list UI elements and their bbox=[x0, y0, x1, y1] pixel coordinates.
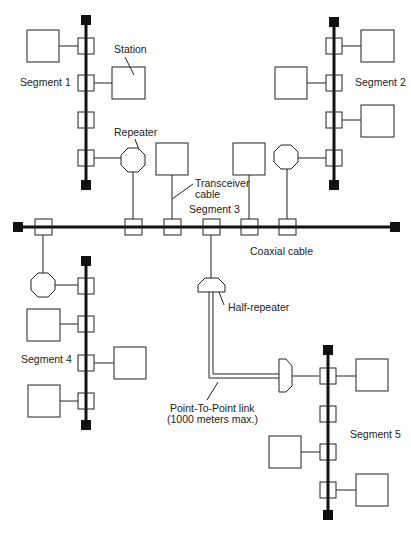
ptp-leader bbox=[207, 382, 218, 400]
half-repeater-leader bbox=[219, 292, 224, 305]
transceiver bbox=[78, 355, 94, 371]
label-segment-1: Segment 1 bbox=[20, 76, 71, 88]
terminator bbox=[329, 17, 339, 27]
transceiver bbox=[78, 38, 94, 54]
transceiver bbox=[78, 112, 94, 128]
station bbox=[269, 436, 301, 468]
station bbox=[361, 105, 394, 137]
transceiver bbox=[320, 406, 336, 422]
terminator bbox=[81, 256, 91, 266]
label-ptp-max: (1000 meters max.) bbox=[167, 413, 258, 425]
terminator bbox=[81, 420, 91, 430]
label-segment-5: Segment 5 bbox=[350, 428, 401, 440]
station bbox=[356, 359, 388, 391]
transceiver bbox=[78, 150, 94, 166]
station bbox=[233, 143, 265, 175]
label-transceiver-cable: cable bbox=[195, 188, 220, 200]
transceiver bbox=[78, 278, 94, 294]
repeater bbox=[121, 148, 145, 172]
half-repeater bbox=[198, 278, 225, 292]
transceiver bbox=[320, 368, 336, 384]
station bbox=[356, 474, 388, 506]
label-segment-4: Segment 4 bbox=[21, 353, 72, 365]
repeater bbox=[274, 145, 298, 169]
label-station: Station bbox=[114, 43, 147, 55]
terminator bbox=[81, 180, 91, 190]
station bbox=[112, 67, 145, 99]
transceiver bbox=[78, 393, 94, 409]
label-coaxial-cable: Coaxial cable bbox=[250, 245, 313, 257]
repeater bbox=[31, 273, 55, 297]
terminator bbox=[81, 15, 91, 25]
transceiver bbox=[279, 219, 296, 235]
station bbox=[361, 30, 394, 62]
station bbox=[156, 143, 188, 175]
terminator bbox=[323, 345, 333, 355]
label-half-repeater: Half-repeater bbox=[228, 301, 290, 313]
label-segment-3: Segment 3 bbox=[189, 203, 240, 215]
station bbox=[28, 385, 60, 417]
station bbox=[275, 67, 307, 99]
terminator bbox=[390, 222, 400, 232]
half-repeater bbox=[279, 359, 292, 392]
transceiver bbox=[320, 482, 336, 498]
transceiver bbox=[203, 219, 220, 235]
transceiver bbox=[326, 112, 342, 128]
transceiver bbox=[78, 316, 94, 332]
transceiver bbox=[78, 75, 94, 91]
transceiver bbox=[326, 38, 342, 54]
segment-3 bbox=[13, 219, 400, 235]
transceiver-leader bbox=[172, 184, 193, 199]
transceiver bbox=[326, 75, 342, 91]
terminator bbox=[329, 180, 339, 190]
transceiver bbox=[125, 219, 142, 235]
label-segment-2: Segment 2 bbox=[355, 76, 406, 88]
station bbox=[114, 347, 146, 379]
terminator bbox=[323, 510, 333, 520]
label-repeater: Repeater bbox=[114, 126, 158, 138]
station bbox=[27, 30, 59, 62]
transceiver bbox=[320, 444, 336, 460]
terminator bbox=[13, 222, 23, 232]
station bbox=[27, 309, 60, 341]
transceiver bbox=[35, 219, 52, 235]
transceiver bbox=[241, 219, 258, 235]
transceiver bbox=[164, 219, 181, 235]
transceiver bbox=[326, 150, 342, 166]
network-diagram: Station Segment 1 Segment 2 Repeater Tra… bbox=[0, 0, 411, 534]
